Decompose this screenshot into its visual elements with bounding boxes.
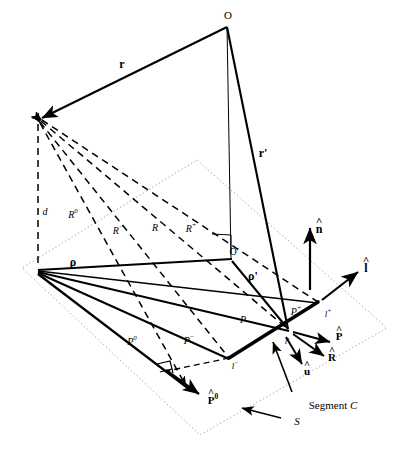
segment-C-leader-line [273,342,292,392]
label-P-plain: P [240,315,246,325]
solid-P-rays [38,259,318,389]
label-rho-prime: ρ' [248,270,258,282]
label-l-prime: l' [285,337,289,346]
label-vector-r-prime: r' [259,147,268,159]
label-origin-O: O [224,10,232,21]
vector-r-prime [227,27,288,329]
label-surface-S: S [294,416,300,427]
surface-S-leader-line [242,408,281,418]
label-unit-P0-hat: ^P0 [208,393,218,406]
dashed-R-rays [40,120,318,386]
label-P-plus: P+ [291,305,302,316]
diagram-svg [0,0,407,451]
line-O-to-Oprime [227,27,231,258]
label-R-minus: R− [113,224,124,235]
label-distance-d: d [43,207,48,217]
label-l-plus: l+ [325,308,332,319]
label-P-minus: P− [184,334,195,345]
label-R-zero: R0 [68,208,78,219]
dashed-foot-line [167,358,229,371]
figure-canvas: O O' r r' d R0 R− R R+ ρ ρ' P0 P− P P+ l… [0,0,407,451]
label-l-minus: l− [232,360,239,371]
unit-vector-l-hat-arrow [322,272,358,300]
label-R-plus: R+ [186,222,197,233]
label-unit-l-hat: ^l [364,262,367,274]
label-P-zero: P0 [127,335,137,346]
label-unit-n-hat: ^n [316,223,323,235]
label-segment-C: Segment C [309,400,358,411]
right-angle-marker-Oprime [212,234,231,254]
label-rho: ρ [70,256,76,268]
surface-plane-outline [22,160,387,435]
label-unit-P-hat: ^P [336,331,343,342]
label-R-plain: R [152,223,158,233]
unit-vector-P0-hat-arrow [166,370,199,394]
label-vector-r: r [119,58,124,70]
label-unit-u-hat: ^u [304,366,310,377]
label-origin-O-prime: O' [229,247,238,257]
label-unit-R-hat: ^R [328,352,336,363]
vector-r [42,27,227,118]
unit-vector-R-hat-arrow [293,334,324,356]
